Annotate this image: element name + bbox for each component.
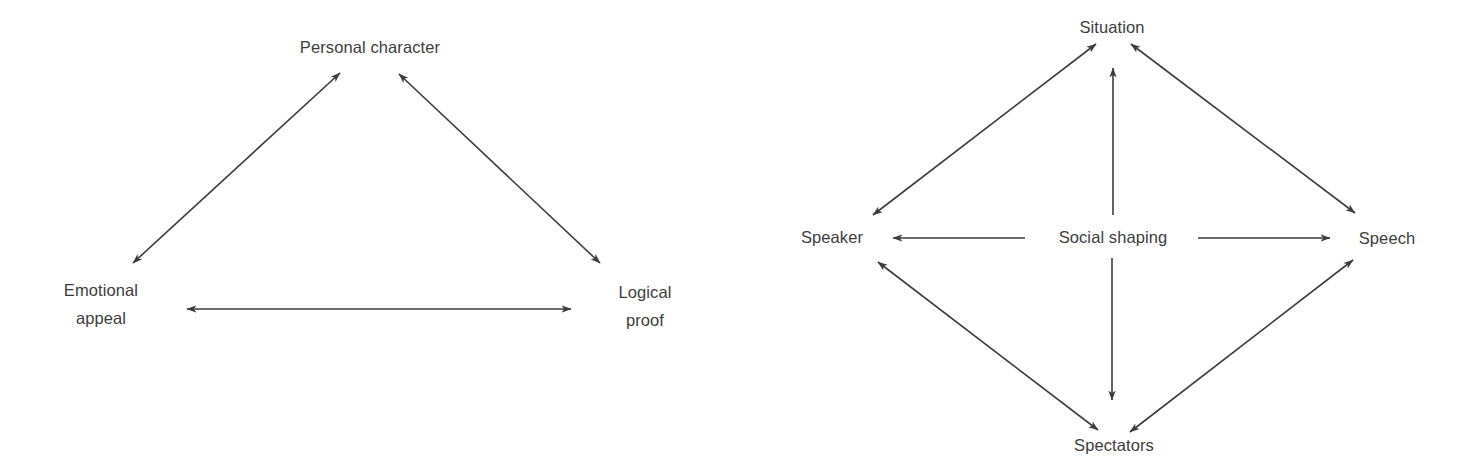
arrow-speech-spectators (1130, 260, 1353, 432)
arrow-personal_character-emotional_appeal (133, 73, 340, 263)
node-label-situation: Situation (1079, 13, 1144, 41)
node-label-logical-proof: Logical proof (610, 278, 680, 334)
arrow-situation-speech (1131, 44, 1355, 213)
figure-canvas: Personal character Emotional appeal Logi… (0, 0, 1474, 471)
node-label-social-shaping: Social shaping (1059, 223, 1168, 251)
node-label-speech: Speech (1359, 224, 1416, 252)
node-label-spectators: Spectators (1074, 431, 1154, 459)
node-label-speaker: Speaker (801, 223, 863, 251)
arrow-layer (0, 0, 1474, 471)
arrow-speaker-spectators (878, 262, 1098, 430)
arrow-personal_character-logical_proof (399, 74, 600, 263)
node-label-personal-character: Personal character (300, 33, 440, 61)
arrow-situation-speaker (873, 44, 1096, 215)
node-label-emotional-appeal: Emotional appeal (53, 276, 149, 332)
